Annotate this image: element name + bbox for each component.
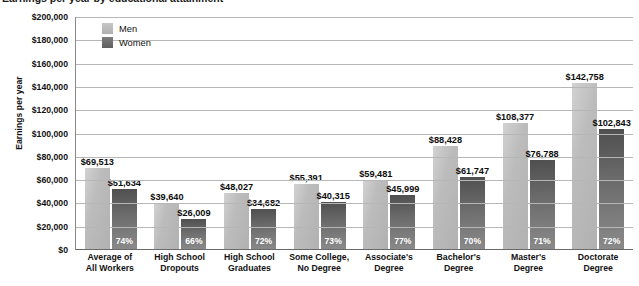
y-axis-tick: $60,000 (37, 175, 68, 185)
gridline (76, 64, 633, 65)
y-axis-tick: $140,000 (32, 82, 68, 92)
bar-value-label: $39,640 (150, 192, 183, 202)
gridline (76, 157, 633, 158)
bar-value-label: $48,027 (220, 182, 253, 192)
bar-women[interactable]: $102,84372% (599, 129, 624, 249)
bar-value-label: $55,391 (290, 173, 323, 183)
earnings-bar-chart: Earnings per year by educational attainm… (0, 0, 639, 286)
legend-item-women: Women (102, 37, 151, 48)
x-axis-category-label: Average ofAll Workers (75, 252, 145, 274)
bar-men[interactable]: $88,428 (433, 146, 458, 249)
y-axis-tick-labels: $200,000$180,000$160,000$140,000$120,000… (0, 0, 72, 286)
legend-label-men: Men (119, 24, 137, 34)
chart-title: Earnings per year by educational attainm… (0, 0, 639, 5)
bar-women[interactable]: $34,68272% (251, 209, 276, 249)
gridline (76, 87, 633, 88)
bar-value-label: $59,481 (359, 169, 392, 179)
bar-value-label: $102,843 (593, 118, 631, 128)
x-axis-category-label: High SchoolGraduates (215, 252, 285, 274)
gridline (76, 110, 633, 111)
legend-swatch-men-icon (102, 23, 113, 34)
bar-value-label: $142,758 (566, 72, 604, 82)
x-axis-category-label: DoctorateDegree (563, 252, 633, 274)
bar-value-label: $69,513 (81, 157, 114, 167)
y-axis-tick: $120,000 (32, 105, 68, 115)
bar-ratio-label: 70% (464, 236, 481, 246)
bar-men[interactable]: $48,027 (224, 193, 249, 249)
gridline (76, 17, 633, 18)
bar-ratio-label: 74% (116, 236, 133, 246)
bar-men[interactable]: $142,758 (572, 83, 597, 249)
bar-ratio-label: 77% (394, 236, 411, 246)
y-axis-tick: $0 (58, 245, 68, 255)
chart-title-clipped: Earnings per year by educational attainm… (0, 0, 639, 5)
x-axis-category-label: Associate'sDegree (354, 252, 424, 274)
bar-ratio-label: 72% (255, 236, 272, 246)
bar-ratio-label: 66% (185, 236, 202, 246)
y-axis-tick: $40,000 (37, 198, 68, 208)
y-axis-tick: $200,000 (32, 12, 68, 22)
bar-value-label: $45,999 (386, 184, 419, 194)
bar-value-label: $40,315 (317, 191, 350, 201)
gridline (76, 227, 633, 228)
plot-area: Men Women $69,513$51,63474%$39,640$26,00… (75, 17, 633, 250)
bar-men[interactable]: $59,481 (363, 180, 388, 249)
x-axis-category-label: Master'sDegree (494, 252, 564, 274)
bar-men[interactable]: $55,391 (294, 184, 319, 249)
bar-value-label: $61,747 (456, 166, 489, 176)
y-axis-tick: $80,000 (37, 152, 68, 162)
legend-label-women: Women (119, 38, 151, 48)
x-axis-category-label: High SchoolDropouts (145, 252, 215, 274)
bar-women[interactable]: $61,74770% (460, 177, 485, 249)
bar-women[interactable]: $40,31573% (321, 202, 346, 249)
bar-value-label: $26,009 (177, 208, 210, 218)
x-axis-category-labels: Average ofAll WorkersHigh SchoolDropouts… (75, 252, 633, 274)
bar-ratio-label: 73% (325, 236, 342, 246)
y-axis-tick: $180,000 (32, 35, 68, 45)
gridline (76, 203, 633, 204)
bar-women[interactable]: $51,63474% (112, 189, 137, 249)
bar-value-label: $88,428 (429, 135, 462, 145)
x-axis-category-label: Bachelor'sDegree (424, 252, 494, 274)
y-axis-tick: $100,000 (32, 129, 68, 139)
gridline (76, 180, 633, 181)
bar-ratio-label: 71% (533, 236, 550, 246)
chart-legend: Men Women (102, 23, 151, 51)
legend-item-men: Men (102, 23, 151, 34)
y-axis-tick: $20,000 (37, 222, 68, 232)
x-axis-category-label: Some College,No Degree (284, 252, 354, 274)
y-axis-tick: $160,000 (32, 59, 68, 69)
bar-ratio-label: 72% (603, 236, 620, 246)
bar-women[interactable]: $26,00966% (181, 219, 206, 249)
gridline (76, 134, 633, 135)
bar-value-label: $108,377 (496, 112, 534, 122)
bar-men[interactable]: $108,377 (503, 123, 528, 249)
gridline (76, 40, 633, 41)
legend-swatch-women-icon (102, 37, 113, 48)
